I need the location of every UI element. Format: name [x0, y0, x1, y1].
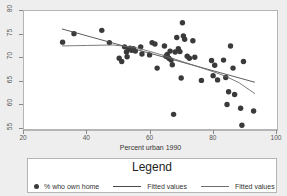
scatter-point — [178, 75, 183, 80]
y-tick-mark — [19, 104, 23, 105]
scatter-point — [212, 63, 217, 68]
fitted-line — [62, 29, 255, 82]
scatter-plot-canvas — [24, 11, 277, 129]
scatter-point — [221, 57, 226, 62]
legend-entry-label: % who own home — [44, 183, 99, 190]
y-tick-mark — [19, 81, 23, 82]
legend-line-icon — [201, 186, 229, 187]
y-tick-mark — [19, 10, 23, 11]
x-tick-label: 40 — [73, 134, 99, 141]
scatter-point — [210, 73, 215, 78]
scatter-point — [224, 102, 229, 107]
scatter-point — [192, 55, 197, 60]
scatter-point — [230, 65, 235, 70]
scatter-point — [180, 20, 185, 25]
legend-entry[interactable]: Fitted values — [113, 183, 187, 190]
scatter-point — [119, 59, 124, 64]
legend-line-icon — [113, 186, 141, 187]
scatter-point — [182, 37, 187, 42]
x-tick-label: 60 — [137, 134, 163, 141]
scatter-point — [241, 59, 246, 64]
scatter-point — [215, 77, 220, 82]
legend-entries: % who own homeFitted valuesFitted values — [28, 179, 276, 193]
scatter-point — [124, 54, 129, 59]
scatter-point — [209, 58, 214, 63]
x-axis-title: Percent urban 1990 — [23, 144, 278, 151]
x-tick-label: 20 — [10, 134, 36, 141]
y-tick-label: 65 — [6, 69, 13, 89]
y-axis: 556065707580 — [0, 0, 23, 131]
scatter-point — [239, 123, 244, 128]
scatter-point — [187, 56, 192, 61]
scatter-point — [251, 108, 256, 113]
scatter-point — [167, 48, 172, 53]
x-axis: 20406080100 — [23, 130, 278, 144]
scatter-point — [154, 65, 159, 70]
scatter-point — [99, 28, 104, 33]
legend-entry[interactable]: Fitted values — [201, 183, 275, 190]
plot-area — [23, 10, 278, 130]
scatter-point — [174, 35, 179, 40]
x-tick-label: 80 — [200, 134, 226, 141]
scatter-point — [139, 51, 144, 56]
x-tick-label: 100 — [263, 134, 287, 141]
scatter-point — [177, 49, 182, 54]
scatter-point — [190, 38, 195, 43]
scatter-point — [228, 43, 233, 48]
y-tick-mark — [19, 34, 23, 35]
legend-entry-label: Fitted values — [235, 183, 275, 190]
y-tick-mark — [19, 57, 23, 58]
scatter-point — [238, 106, 243, 111]
scatter-point — [152, 41, 157, 46]
legend-entry[interactable]: % who own home — [34, 183, 99, 190]
legend-marker-icon — [34, 184, 39, 189]
scatter-point — [162, 43, 167, 48]
legend-title: Legend — [28, 160, 276, 174]
x-axis-line — [23, 130, 278, 131]
y-tick-label: 60 — [6, 93, 13, 113]
y-tick-label: 75 — [6, 22, 13, 42]
y-tick-label: 80 — [6, 0, 13, 19]
scatter-point — [171, 112, 176, 117]
chart-root: 556065707580 20406080100 Percent urban 1… — [0, 0, 287, 196]
legend: Legend % who own homeFitted valuesFitted… — [27, 158, 277, 193]
scatter-point — [232, 92, 237, 97]
legend-entry-label: Fitted values — [147, 183, 187, 190]
y-tick-label: 70 — [6, 46, 13, 66]
y-tick-mark — [19, 128, 23, 129]
scatter-point — [170, 62, 175, 67]
scatter-point — [199, 78, 204, 83]
scatter-point — [60, 39, 65, 44]
scatter-point — [226, 89, 231, 94]
